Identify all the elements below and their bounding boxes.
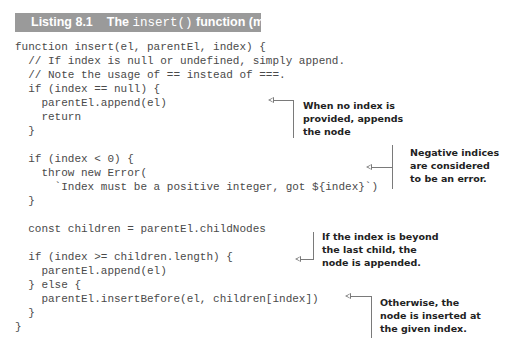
code-line: } else {: [15, 279, 81, 291]
listing-number: Listing 8.1: [31, 15, 93, 29]
code-line: function insert(el, parentEl, index) {: [15, 41, 266, 53]
listing-title-prefix: The: [107, 15, 133, 29]
callout-line: [313, 232, 314, 260]
annotation-beyond-last-child: If the index is beyond the last child, t…: [322, 230, 438, 269]
code-line: if (index >= children.length) {: [15, 251, 233, 263]
callout-line: [274, 100, 293, 101]
listing-title-code: insert(): [133, 16, 193, 30]
listing-header: Listing 8.1The insert() function (mount-…: [15, 13, 261, 32]
code-line: }: [15, 321, 22, 333]
code-line: parentEl.append(el): [15, 97, 167, 109]
callout-line: [392, 145, 393, 189]
code-line: if (index < 0) {: [15, 153, 134, 165]
code-line: return: [15, 111, 81, 123]
callout-line: [293, 100, 294, 138]
annotation-no-index: When no index is provided, appends the n…: [303, 99, 403, 138]
code-line: }: [15, 307, 35, 319]
code-line: // Note the usage of == instead of ===.: [15, 69, 286, 81]
callout-line: [371, 296, 372, 338]
listing-title-suffix: function (mount-dom.js): [193, 15, 340, 29]
code-line: const children = parentEl.childNodes: [15, 223, 266, 235]
code-line: }: [15, 195, 35, 207]
callout-line: [301, 259, 313, 260]
code-line: throw new Error(: [15, 167, 147, 179]
annotation-otherwise: Otherwise, the node is inserted at the g…: [380, 296, 481, 335]
code-line: if (index == null) {: [15, 83, 160, 95]
callout-line: [372, 167, 392, 168]
code-line: `Index must be a positive integer, got $…: [15, 181, 378, 193]
callout-line: [351, 296, 371, 297]
code-line: // If index is null or undefined, simply…: [15, 55, 345, 67]
code-line: parentEl.insertBefore(el, children[index…: [15, 293, 319, 305]
code-line: }: [15, 125, 35, 137]
code-block: function insert(el, parentEl, index) { /…: [15, 40, 378, 334]
code-line: parentEl.append(el): [15, 265, 167, 277]
annotation-negative-index: Negative indices are considered to be an…: [410, 146, 499, 185]
